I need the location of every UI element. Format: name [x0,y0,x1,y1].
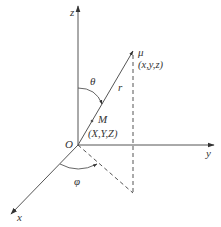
point-M-marker [91,120,94,123]
theta-arc [78,88,102,104]
r-label: r [118,81,123,93]
x-axis [11,145,78,214]
theta-label: θ [90,75,96,87]
point-mu-label: μ [137,46,144,58]
point-mu-coords: (x,y,z) [138,59,164,71]
phi-arc [60,164,97,169]
point-M-label: M [97,113,108,125]
y-axis-label: y [205,147,211,159]
x-axis-label: x [16,211,22,223]
z-axis-label: z [69,6,75,18]
origin-label: O [65,138,73,150]
projection-xy [78,145,133,193]
spherical-coordinate-diagram: z y x O r μ (x,y,z) M (X,Y,Z) θ φ [0,0,221,227]
phi-label: φ [74,175,80,187]
point-M-coords: (X,Y,Z) [88,128,118,140]
